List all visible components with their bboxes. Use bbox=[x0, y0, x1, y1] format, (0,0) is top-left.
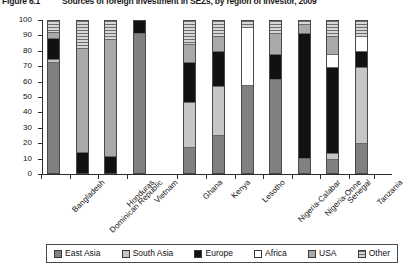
bar-segment bbox=[213, 86, 224, 135]
y-tick-label: 40 bbox=[23, 108, 32, 116]
x-category-label: Dominican Republic bbox=[107, 178, 164, 235]
bar-honduras bbox=[104, 20, 117, 174]
plot-area: share of ownership (%) 01020304050607080… bbox=[42, 20, 392, 175]
bar-senegal bbox=[326, 20, 339, 174]
bar-segment bbox=[134, 21, 145, 33]
figure-title: Figure 6.1 Sources of foreign investment… bbox=[0, 0, 406, 10]
y-tick-label: 50 bbox=[23, 93, 32, 101]
bar-segment bbox=[327, 159, 338, 173]
bar-kenya bbox=[212, 20, 225, 174]
legend-item-eastasia[interactable]: East Asia bbox=[54, 249, 100, 258]
bar-segment bbox=[184, 102, 195, 148]
legend-swatch-icon bbox=[254, 250, 262, 258]
bar-segment bbox=[77, 21, 88, 48]
y-tick: 20 bbox=[38, 143, 42, 144]
legend-item-usa[interactable]: USA bbox=[308, 249, 336, 258]
legend-label: East Asia bbox=[65, 249, 100, 258]
bar-tanzania bbox=[355, 20, 368, 174]
figure-title-text: Sources of foreign investment in SEZs, b… bbox=[62, 0, 317, 6]
y-tick-label: 10 bbox=[23, 155, 32, 163]
bar-segment bbox=[77, 48, 88, 151]
x-tick bbox=[206, 175, 207, 179]
x-tick bbox=[177, 175, 178, 179]
bar-segment bbox=[299, 33, 310, 158]
legend-swatch-icon bbox=[54, 250, 62, 258]
bar-segment bbox=[213, 36, 224, 51]
legend-item-europe[interactable]: Europe bbox=[194, 249, 232, 258]
y-tick-label: 30 bbox=[23, 124, 32, 132]
legend-label: South Asia bbox=[133, 249, 174, 258]
legend-label: Europe bbox=[205, 249, 232, 258]
bar-segment bbox=[184, 62, 195, 102]
y-tick: 100 bbox=[38, 20, 42, 21]
bar-nigeria-calabar bbox=[269, 20, 282, 174]
y-tick-label: 80 bbox=[23, 47, 32, 55]
chart-legend: East AsiaSouth AsiaEuropeAfricaUSAOther bbox=[46, 244, 398, 263]
y-tick: 40 bbox=[38, 112, 42, 113]
x-axis bbox=[42, 174, 392, 175]
y-tick: 90 bbox=[38, 35, 42, 36]
bar-segment bbox=[299, 158, 310, 173]
legend-item-africa[interactable]: Africa bbox=[254, 249, 287, 258]
x-tick bbox=[320, 175, 321, 179]
bar-segment bbox=[270, 33, 281, 54]
bar-segment bbox=[356, 143, 367, 173]
legend-label: USA bbox=[319, 249, 336, 258]
bar-segment bbox=[105, 21, 116, 39]
bar-segment bbox=[242, 27, 253, 85]
bar-segment bbox=[105, 39, 116, 156]
x-tick bbox=[235, 175, 236, 179]
y-tick-label: 70 bbox=[23, 62, 32, 70]
bar-vietnam bbox=[133, 20, 146, 174]
bar-segment bbox=[134, 33, 145, 173]
bar-segment bbox=[48, 21, 59, 32]
legend-item-other[interactable]: Other bbox=[358, 249, 390, 258]
x-category-label: Tanzania bbox=[375, 178, 404, 207]
bar-segment bbox=[77, 152, 88, 173]
bar-segment bbox=[213, 135, 224, 173]
x-tick bbox=[374, 175, 375, 179]
bar-lesotho bbox=[241, 20, 254, 174]
bar-segment bbox=[184, 44, 195, 62]
legend-item-southasia[interactable]: South Asia bbox=[122, 249, 174, 258]
x-tick bbox=[292, 175, 293, 179]
bar-segment bbox=[299, 24, 310, 33]
bar-nigeria-onne bbox=[298, 20, 311, 174]
legend-swatch-icon bbox=[194, 250, 202, 258]
bar-segment bbox=[48, 62, 59, 173]
bar-segment bbox=[327, 36, 338, 54]
legend-label: Africa bbox=[265, 249, 287, 258]
y-tick-label: 90 bbox=[23, 31, 32, 39]
bar-segment bbox=[213, 21, 224, 36]
bar-segment bbox=[327, 67, 338, 154]
legend-label: Other bbox=[369, 249, 390, 258]
y-tick-label: 100 bbox=[19, 16, 32, 24]
bar-segment bbox=[327, 21, 338, 36]
y-tick: 10 bbox=[38, 159, 42, 160]
y-tick-label: 0 bbox=[28, 170, 32, 178]
bar-segment bbox=[356, 67, 367, 143]
x-category-label: Lesotho bbox=[260, 178, 286, 204]
bar-segment bbox=[184, 21, 195, 44]
legend-swatch-icon bbox=[358, 250, 366, 258]
legend-swatch-icon bbox=[122, 250, 130, 258]
bar-dominican-republic bbox=[76, 20, 89, 174]
bar-segment bbox=[327, 54, 338, 66]
figure-container: Figure 6.1 Sources of foreign investment… bbox=[0, 0, 406, 267]
bar-segment bbox=[356, 36, 367, 51]
legend-swatch-icon bbox=[308, 250, 316, 258]
x-tick bbox=[41, 175, 42, 179]
x-tick bbox=[263, 175, 264, 179]
x-category-label: Bangladesh bbox=[70, 178, 106, 214]
y-axis bbox=[42, 20, 43, 175]
x-tick bbox=[349, 175, 350, 179]
x-tick bbox=[127, 175, 128, 179]
bar-segment bbox=[48, 38, 59, 59]
bar-bangladesh bbox=[47, 20, 60, 174]
bar-ghana bbox=[183, 20, 196, 174]
bar-segment bbox=[270, 79, 281, 173]
y-tick: 80 bbox=[38, 51, 42, 52]
bar-segment bbox=[356, 21, 367, 36]
x-category-label: Kenya bbox=[230, 178, 252, 200]
bar-segment bbox=[270, 54, 281, 78]
